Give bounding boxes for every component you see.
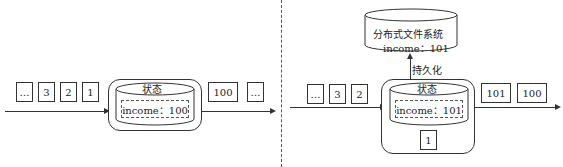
state-title: 状态 xyxy=(417,81,437,96)
state-value: income：100 xyxy=(121,100,189,118)
persist-label: 持久化 xyxy=(412,62,442,77)
arrow-right-icon xyxy=(555,104,561,110)
arrow-right-icon xyxy=(270,108,276,114)
input-event: 3 xyxy=(38,82,55,102)
input-stream-line xyxy=(5,111,108,112)
input-event: … xyxy=(16,82,33,102)
input-stream-line xyxy=(290,107,385,108)
output-event: 100 xyxy=(208,82,238,102)
output-stream-line xyxy=(202,111,272,112)
input-event: 2 xyxy=(351,84,368,104)
storage-title: 分布式文件系统 xyxy=(373,26,443,41)
processing-event: 1 xyxy=(420,130,437,150)
input-event: 2 xyxy=(60,82,77,102)
output-event: 100 xyxy=(517,83,547,103)
output-event: 101 xyxy=(481,83,511,103)
input-event: 1 xyxy=(82,82,99,102)
state-title: 状态 xyxy=(142,81,162,96)
persist-line xyxy=(410,58,411,79)
input-event: … xyxy=(307,84,324,104)
arrow-up-icon xyxy=(407,53,413,59)
output-stream-line xyxy=(475,107,557,108)
output-event: … xyxy=(247,82,264,102)
storage-value: income：101 xyxy=(383,40,449,55)
state-value: income：101 xyxy=(395,100,463,118)
input-event: 3 xyxy=(329,84,346,104)
panel-divider xyxy=(281,0,282,167)
